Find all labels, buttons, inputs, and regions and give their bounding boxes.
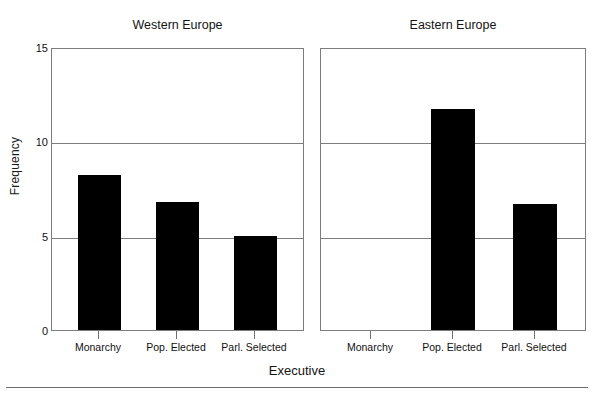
bar-western-parl-selected bbox=[234, 236, 277, 330]
bar-western-monarchy bbox=[78, 175, 121, 330]
x-tick-western-pop-elected bbox=[176, 331, 177, 339]
y-tick-label-0: 0 bbox=[24, 326, 48, 337]
x-axis-title: Executive bbox=[0, 363, 594, 378]
x-tick-label-eastern-pop-elected: Pop. Elected bbox=[422, 341, 482, 353]
y-axis-title-text: Frequency bbox=[8, 136, 22, 195]
panel-title-western-europe: Western Europe bbox=[51, 18, 304, 32]
panel-eastern-europe bbox=[320, 48, 586, 331]
y-tick-label-5: 5 bbox=[24, 231, 48, 242]
x-tick-label-western-parl-selected: Parl. Selected bbox=[221, 341, 286, 353]
x-tick-eastern-monarchy bbox=[370, 331, 371, 339]
x-tick-label-eastern-monarchy: Monarchy bbox=[347, 341, 393, 353]
x-tick-western-parl-selected bbox=[254, 331, 255, 339]
plot-area-eastern-europe bbox=[321, 49, 585, 330]
footer-divider bbox=[6, 387, 588, 388]
plot-area-western-europe bbox=[52, 49, 303, 330]
x-tick-eastern-parl-selected bbox=[534, 331, 535, 339]
panel-title-eastern-europe: Eastern Europe bbox=[320, 18, 586, 32]
bar-eastern-parl-selected bbox=[513, 204, 557, 330]
y-tick-label-15: 15 bbox=[24, 43, 48, 54]
panel-western-europe bbox=[51, 48, 304, 331]
x-tick-western-monarchy bbox=[98, 331, 99, 339]
x-tick-label-western-pop-elected: Pop. Elected bbox=[146, 341, 206, 353]
bar-western-pop-elected bbox=[156, 202, 199, 330]
chart-figure: Frequency 0 5 10 15 Western Europe Easte… bbox=[0, 0, 594, 399]
x-tick-eastern-pop-elected bbox=[452, 331, 453, 339]
x-tick-label-western-monarchy: Monarchy bbox=[75, 341, 121, 353]
x-tick-label-eastern-parl-selected: Parl. Selected bbox=[501, 341, 566, 353]
y-tick-label-10: 10 bbox=[24, 137, 48, 148]
bar-eastern-pop-elected bbox=[431, 109, 475, 330]
